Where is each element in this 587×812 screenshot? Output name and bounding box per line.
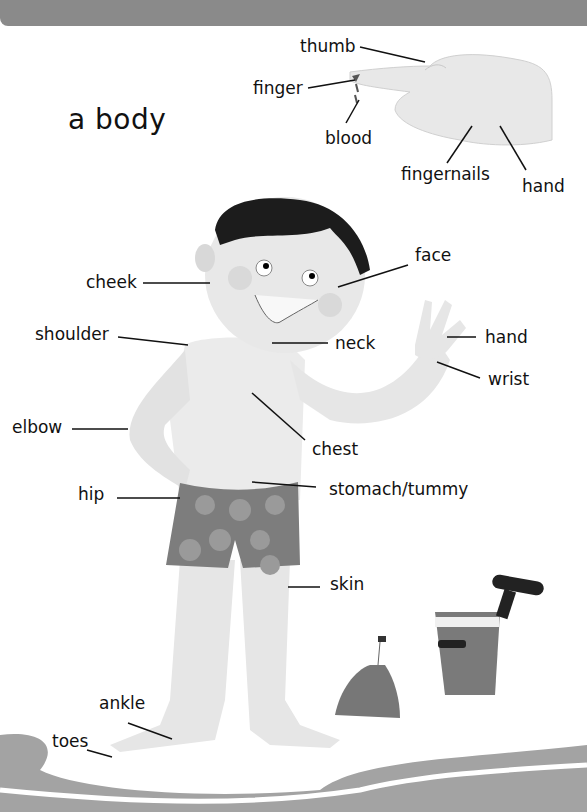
label-finger: finger [253, 78, 303, 98]
label-hip: hip [78, 484, 104, 504]
label-thumb: thumb [300, 36, 356, 56]
label-face: face [415, 245, 451, 265]
label-skin: skin [330, 574, 364, 594]
label-hand: hand [485, 327, 528, 347]
label-hand-top: hand [522, 176, 565, 196]
label-blood: blood [325, 128, 372, 148]
label-ankle: ankle [99, 693, 145, 713]
label-chest: chest [312, 439, 358, 459]
label-neck: neck [335, 333, 375, 353]
label-stomach: stomach/tummy [329, 479, 468, 499]
label-cheek: cheek [86, 272, 137, 292]
sandcastle [335, 665, 400, 718]
label-elbow: elbow [12, 417, 62, 437]
spade [491, 574, 545, 597]
label-toes: toes [52, 731, 88, 751]
pointing-hand-illustration [350, 55, 552, 145]
label-fingernails: fingernails [401, 164, 490, 184]
label-wrist: wrist [488, 369, 529, 389]
page-title: a body [68, 103, 166, 136]
label-shoulder: shoulder [35, 324, 109, 344]
